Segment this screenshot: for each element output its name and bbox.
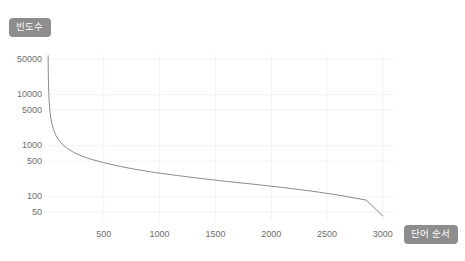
y-tick-label: 10000	[2, 90, 42, 99]
y-tick-label: 5000	[2, 106, 42, 115]
x-tick-label: 1000	[140, 230, 180, 239]
y-tick-label: 1000	[2, 141, 42, 150]
x-tick-label: 500	[84, 230, 124, 239]
plot-area	[0, 0, 465, 261]
x-tick-label: 1500	[195, 230, 235, 239]
y-tick-label: 50	[2, 208, 42, 217]
x-tick-label: 2000	[251, 230, 291, 239]
y-tick-label: 500	[2, 157, 42, 166]
y-tick-label: 50000	[2, 55, 42, 64]
x-tick-label: 2500	[307, 230, 347, 239]
x-tick-label: 3000	[363, 230, 403, 239]
y-tick-label: 100	[2, 192, 42, 201]
chart-container: 빈도수 단어 순서 50100500100050001000050000 500…	[0, 0, 465, 261]
